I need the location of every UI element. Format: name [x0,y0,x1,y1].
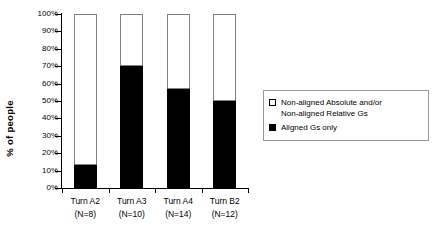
y-axis-tick-label: 70% [18,61,58,71]
y-axis-tick-label: 50% [18,96,58,106]
bar-segment-non-aligned[interactable] [213,14,236,101]
bar-segment-aligned[interactable] [120,66,143,188]
bar-group[interactable] [120,14,143,188]
y-axis-tick-label: 80% [18,44,58,54]
legend-label-line: Non-aligned Relative Gs [281,108,382,119]
x-axis-tick-mark [109,188,110,193]
x-axis-category-label: Turn B2(N=12) [190,195,260,221]
y-axis-tick-mark [55,188,62,189]
y-axis-tick-label: 90% [18,26,58,36]
filled-square-icon [269,124,276,131]
category-sample-size: (N=12) [190,208,260,221]
y-axis-tick-label: 60% [18,79,58,89]
y-axis-tick-mark [55,66,62,67]
bar-segment-non-aligned[interactable] [167,14,190,89]
y-axis-title: % of people [2,88,16,168]
bar-segment-non-aligned[interactable] [120,14,143,66]
x-axis-tick-mark [155,188,156,193]
legend-entry-label: Non-aligned Absolute and/orNon-aligned R… [281,97,382,119]
y-axis-tick-label: 40% [18,113,58,123]
y-axis-tick-labels: 0%10%20%30%40%50%60%70%80%90%100% [18,9,58,193]
legend-label-line: Aligned Gs only [281,122,337,133]
legend-label-line: Non-aligned Absolute and/or [281,97,382,108]
legend-entry-label: Aligned Gs only [281,122,337,133]
chart-legend: Non-aligned Absolute and/orNon-aligned R… [263,90,429,141]
bar-segment-aligned[interactable] [213,101,236,188]
y-axis-tick-mark [55,84,62,85]
y-axis-tick-mark [55,31,62,32]
bars-layer [62,14,248,188]
x-axis-tick-mark [62,188,63,193]
y-axis-tick-mark [55,14,62,15]
x-axis-category-labels: Turn A2(N=8)Turn A3(N=10)Turn A4(N=14)Tu… [62,195,248,229]
bar-group[interactable] [167,14,190,188]
y-axis-tick-mark [55,171,62,172]
legend-entry[interactable]: Aligned Gs only [269,122,423,133]
bar-segment-non-aligned[interactable] [74,14,97,165]
bar-segment-aligned[interactable] [167,89,190,188]
x-axis-tick-mark [248,188,249,193]
y-axis-tick-mark [55,49,62,50]
bar-segment-aligned[interactable] [74,165,97,188]
y-axis-tick-mark [55,118,62,119]
y-axis-tick-label: 100% [18,9,58,19]
x-axis-tick-mark [202,188,203,193]
bar-group[interactable] [213,14,236,188]
y-axis-tick-label: 20% [18,148,58,158]
open-square-icon [269,99,276,106]
y-axis-title-text: % of people [4,100,15,157]
y-axis-tick-mark [55,101,62,102]
y-axis-tick-label: 0% [18,183,58,193]
y-axis-tick-label: 10% [18,166,58,176]
legend-entry[interactable]: Non-aligned Absolute and/orNon-aligned R… [269,97,423,119]
y-axis-tick-mark [55,153,62,154]
y-axis-tick-label: 30% [18,131,58,141]
y-axis-tick-mark [55,136,62,137]
bar-group[interactable] [74,14,97,188]
category-name: Turn B2 [190,195,260,208]
